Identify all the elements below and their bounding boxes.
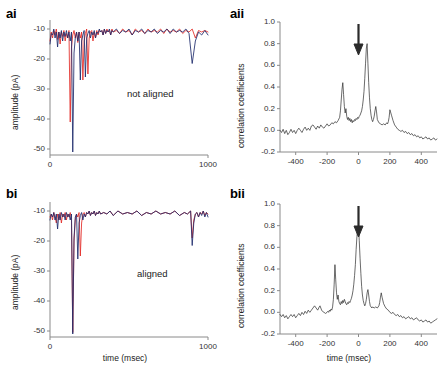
- y-tick-label: -50: [15, 144, 45, 153]
- down-arrow-icon: [354, 206, 363, 237]
- panel-label-ai: ai: [6, 6, 16, 21]
- y-tick-label: 1.0: [245, 199, 275, 208]
- y-tick-label: -50: [15, 326, 45, 335]
- panel-aii: aii correlation coefficients 1.00.80.60.…: [224, 0, 447, 190]
- y-tick-label: 0.4: [245, 264, 275, 273]
- y-tick-label: 0.2: [245, 286, 275, 295]
- x-axis-title-bi: time (msec): [40, 353, 210, 363]
- trace-trace-blue: [50, 211, 208, 334]
- x-axis-title-bii: time (msec): [264, 353, 434, 363]
- y-tick-label: 0.8: [245, 221, 275, 230]
- trace-correlation: [280, 226, 437, 323]
- trace-correlation: [280, 44, 437, 140]
- y-tick-label: 0.2: [245, 104, 275, 113]
- y-tick-label: 0.0: [245, 307, 275, 316]
- down-arrow-icon: [354, 24, 363, 55]
- panel-label-bii: bii: [230, 186, 245, 201]
- annotation-aligned: aligned: [137, 268, 168, 279]
- panel-ai: ai amplitude (pA) -10-20-30-40-5001000: [0, 0, 224, 190]
- y-tick-label: 1.0: [245, 17, 275, 26]
- y-tick-label: -40: [15, 114, 45, 123]
- y-tick-label: 0.6: [245, 242, 275, 251]
- y-tick-label: 0.8: [245, 39, 275, 48]
- y-tick-label: -30: [15, 84, 45, 93]
- panel-bii: bii correlation coefficients time (msec)…: [224, 180, 447, 379]
- annotation-not-aligned: not aligned: [127, 88, 173, 99]
- plot-area-bii: [224, 180, 447, 379]
- y-tick-label: -10: [15, 206, 45, 215]
- x-tick-label: 1000: [188, 342, 228, 351]
- y-tick-label: 0.4: [245, 82, 275, 91]
- x-tick-label: 0: [30, 160, 70, 169]
- y-tick-label: 0.0: [245, 125, 275, 134]
- panel-label-bi: bi: [6, 186, 17, 201]
- y-tick-label: -30: [15, 266, 45, 275]
- x-tick-label: 0: [30, 342, 70, 351]
- y-tick-label: -0.2: [245, 329, 275, 338]
- y-tick-label: -20: [15, 54, 45, 63]
- x-tick-label: 1000: [188, 160, 228, 169]
- y-tick-label: -0.2: [245, 147, 275, 156]
- panel-bi: bi amplitude (pA) time (msec) -10-20-30-…: [0, 180, 224, 379]
- figure-root: ai amplitude (pA) -10-20-30-40-5001000 a…: [0, 0, 447, 379]
- y-tick-label: 0.6: [245, 60, 275, 69]
- y-tick-label: -20: [15, 236, 45, 245]
- y-tick-label: -40: [15, 296, 45, 305]
- y-tick-label: -10: [15, 24, 45, 33]
- x-tick-label: 400: [401, 339, 441, 348]
- x-tick-label: 400: [401, 157, 441, 166]
- panel-label-aii: aii: [230, 6, 244, 21]
